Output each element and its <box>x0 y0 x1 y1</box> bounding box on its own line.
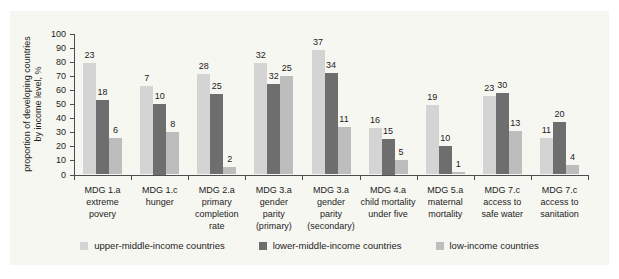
x-axis-tick <box>531 176 532 180</box>
bar-value-label: 20 <box>548 109 570 119</box>
y-axis-tick <box>70 34 74 35</box>
bar-value-label: 23 <box>79 50 101 60</box>
bar <box>280 76 293 175</box>
bar <box>553 122 566 174</box>
bar <box>153 104 166 175</box>
figure: proportion of developing countries by in… <box>0 0 619 279</box>
bar <box>325 73 338 175</box>
legend: upper-middle-income countrieslower-middl… <box>10 240 609 251</box>
x-axis-tick <box>245 176 246 180</box>
y-tick-label: 50 <box>40 99 66 109</box>
bar <box>509 131 522 175</box>
bar <box>83 63 96 174</box>
bar-value-label: 7 <box>136 73 158 83</box>
x-axis-tick <box>131 176 132 180</box>
x-axis-tick <box>360 176 361 180</box>
bar <box>338 127 351 175</box>
legend-label: lower-middle-income countries <box>273 240 402 251</box>
bar-value-label: 25 <box>206 81 228 91</box>
y-axis-tick <box>70 118 74 119</box>
x-axis-tick <box>74 176 75 180</box>
y-tick-label: 90 <box>40 43 66 53</box>
y-tick-label: 20 <box>40 141 66 151</box>
x-axis-tick <box>302 176 303 180</box>
legend-swatch-icon <box>259 242 267 250</box>
y-tick-label: 70 <box>40 71 66 81</box>
bar-value-label: 4 <box>561 152 583 162</box>
legend-swatch-icon <box>436 242 444 250</box>
bar-value-label: 34 <box>320 60 342 70</box>
bar <box>223 167 236 174</box>
x-category-label: MDG 7.c access to sanitation <box>524 184 594 220</box>
bar-value-label: 6 <box>105 125 127 135</box>
x-axis-tick <box>188 176 189 180</box>
y-tick-label: 100 <box>40 29 66 39</box>
bar-value-label: 10 <box>434 133 456 143</box>
y-tick-label: 0 <box>40 170 66 180</box>
bar <box>96 100 109 175</box>
y-tick-label: 40 <box>40 113 66 123</box>
bar-value-label: 25 <box>276 63 298 73</box>
legend-swatch-icon <box>80 242 88 250</box>
y-axis-tick <box>70 132 74 133</box>
y-tick-label: 80 <box>40 57 66 67</box>
bar <box>267 84 280 174</box>
y-axis-tick <box>70 160 74 161</box>
bar <box>566 165 579 175</box>
bar-value-label: 13 <box>504 118 526 128</box>
bar <box>395 160 408 174</box>
bar <box>109 138 122 175</box>
legend-label: low-income countries <box>450 240 539 251</box>
y-tick-label: 60 <box>40 85 66 95</box>
bar-value-label: 32 <box>250 50 272 60</box>
bar <box>452 172 465 175</box>
y-axis-tick <box>70 146 74 147</box>
bar-value-label: 28 <box>193 61 215 71</box>
y-axis-line <box>74 34 75 176</box>
y-axis-tick <box>70 76 74 77</box>
bar-value-label: 19 <box>421 92 443 102</box>
bar-value-label: 18 <box>92 87 114 97</box>
x-axis-tick <box>588 176 589 180</box>
legend-item: upper-middle-income countries <box>80 240 224 251</box>
plot-area: 010203040506070809010023186MDG 1.a extre… <box>0 0 619 279</box>
bar-value-label: 1 <box>447 159 469 169</box>
legend-item: lower-middle-income countries <box>259 240 402 251</box>
bar-value-label: 2 <box>219 154 241 164</box>
bar-value-label: 8 <box>162 119 184 129</box>
x-axis-tick <box>474 176 475 180</box>
bar <box>483 96 496 175</box>
y-axis-tick <box>70 48 74 49</box>
bar-value-label: 16 <box>364 115 386 125</box>
bar-value-label: 15 <box>377 126 399 136</box>
bar-value-label: 10 <box>149 91 171 101</box>
y-tick-label: 10 <box>40 155 66 165</box>
bar <box>166 132 179 174</box>
x-axis-line <box>74 175 589 176</box>
legend-item: low-income countries <box>436 240 539 251</box>
bar <box>540 138 553 175</box>
bar-value-label: 11 <box>333 114 355 124</box>
bar-value-label: 37 <box>307 37 329 47</box>
bar-value-label: 5 <box>390 147 412 157</box>
legend-label: upper-middle-income countries <box>94 240 224 251</box>
y-axis-tick <box>70 90 74 91</box>
y-axis-tick <box>70 104 74 105</box>
bar <box>496 93 509 175</box>
x-axis-tick <box>417 176 418 180</box>
y-axis-tick <box>70 62 74 63</box>
y-tick-label: 30 <box>40 127 66 137</box>
bar-value-label: 30 <box>491 80 513 90</box>
